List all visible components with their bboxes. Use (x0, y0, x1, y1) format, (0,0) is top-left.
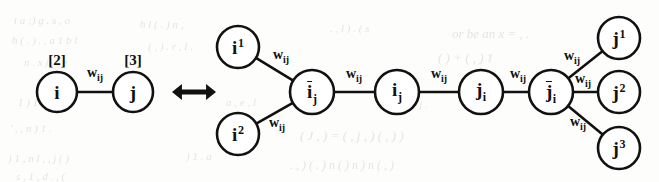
equivalence-arrow-group (172, 84, 216, 100)
node-circle-i (37, 72, 77, 112)
node-circle-jbar_i (529, 70, 573, 114)
equivalence-arrow-icon (172, 84, 216, 100)
node-circle-ibar_j (290, 70, 334, 114)
edge-jbar_i-j3 (567, 105, 603, 135)
edge-jbar_i-j1 (567, 50, 603, 79)
node-circle-j3 (598, 127, 640, 169)
graph-transformation-figure: t a ;) g . s , oh ( . ) . , a 1 b ln . x… (0, 0, 659, 182)
edge-i2-ibar_j (255, 102, 293, 124)
node-circle-i1 (217, 26, 259, 68)
edge-group (76, 50, 604, 135)
node-circle-j1 (598, 17, 640, 59)
edge-i1-ibar_j (255, 57, 294, 81)
node-circle-j_i (459, 70, 503, 114)
node-circle-j (113, 72, 153, 112)
node-circle-i2 (217, 113, 259, 155)
diagram-canvas (0, 0, 659, 182)
node-circle-j2 (598, 71, 640, 113)
node-circle-i_j (375, 70, 419, 114)
